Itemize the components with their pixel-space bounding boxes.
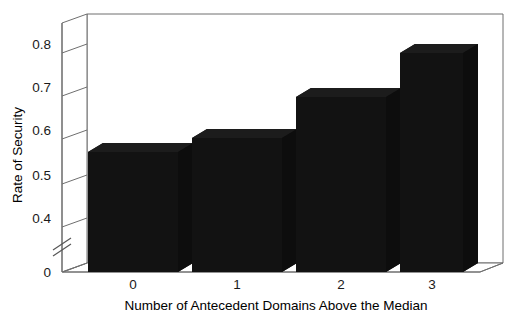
bar-bevel-top-1 <box>192 129 297 138</box>
x-tick-label-2: 2 <box>337 277 345 292</box>
y-tick-label-0.7: 0.7 <box>32 80 51 95</box>
bar-bevel-top-0 <box>88 143 193 152</box>
x-tick-labels: 0 1 2 3 <box>129 277 436 292</box>
bar-front-face-3 <box>400 53 463 272</box>
bar-group-3 <box>400 44 478 272</box>
y-tick-label-0: 0 <box>43 265 51 280</box>
y-axis-title: Rate of Security <box>10 107 25 203</box>
x-tick-label-1: 1 <box>233 277 241 292</box>
bar-front-face-1 <box>192 138 282 272</box>
bar-chart-figure: 0.8 0.7 0.6 0.5 0.4 0 0 1 2 3 Number of … <box>0 0 518 321</box>
x-axis-title: Number of Antecedent Domains Above the M… <box>124 298 427 313</box>
chart-canvas: 0.8 0.7 0.6 0.5 0.4 0 0 1 2 3 Number of … <box>0 0 518 321</box>
left-wall <box>62 14 87 272</box>
bar-front-face-0 <box>88 152 178 272</box>
y-tick-label-0.5: 0.5 <box>32 168 51 183</box>
y-tick-label-0.6: 0.6 <box>32 123 51 138</box>
y-tick-label-0.4: 0.4 <box>32 211 51 226</box>
x-tick-label-0: 0 <box>129 277 137 292</box>
bar-group-2 <box>296 88 401 272</box>
y-tick-label-0.8: 0.8 <box>32 37 51 52</box>
x-tick-label-3: 3 <box>428 277 436 292</box>
bar-side-face-2 <box>386 88 401 272</box>
bar-side-face-3 <box>463 44 478 272</box>
bar-front-face-2 <box>296 97 386 272</box>
bar-bevel-top-2 <box>296 88 401 97</box>
bar-group-0 <box>88 143 193 272</box>
bar-side-face-0 <box>178 143 193 272</box>
y-tick-labels: 0.8 0.7 0.6 0.5 0.4 0 <box>32 37 51 280</box>
bar-group-1 <box>192 129 297 272</box>
bar-side-face-1 <box>282 129 297 272</box>
